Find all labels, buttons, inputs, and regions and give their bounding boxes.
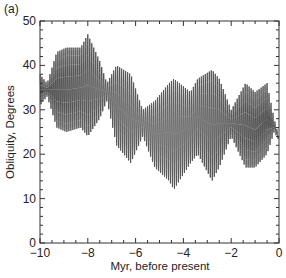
x-tick-labels: −10−8−6−4−20 <box>30 246 283 260</box>
y-tick-label: 50 <box>23 14 37 28</box>
y-tick-label: 0 <box>29 236 36 250</box>
x-tick-label: −4 <box>177 246 191 260</box>
x-tick-label: −6 <box>129 246 143 260</box>
x-tick-label: 0 <box>276 246 283 260</box>
y-tick-label: 40 <box>23 58 37 72</box>
x-tick-label: −2 <box>224 246 238 260</box>
y-tick-label: 10 <box>23 192 37 206</box>
y-tick-label: 20 <box>23 147 37 161</box>
x-axis-title: Myr, before present <box>110 260 210 272</box>
y-tick-label: 30 <box>23 103 37 117</box>
obliquity-line <box>40 34 279 188</box>
x-tick-label: −8 <box>81 246 95 260</box>
obliquity-chart: −10−8−6−4−20 01020304050 Myr, before pre… <box>0 0 286 278</box>
y-tick-labels: 01020304050 <box>23 14 37 250</box>
y-axis-title: Obliquity, Degrees <box>4 85 16 179</box>
